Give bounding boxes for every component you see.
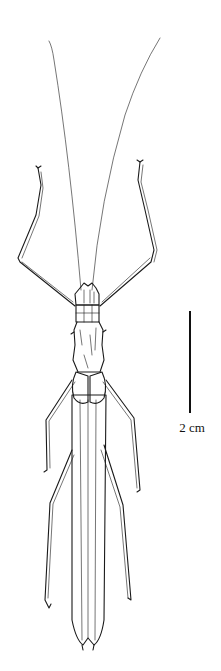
midlegs — [44, 380, 140, 492]
insect-illustration — [0, 0, 221, 671]
tegmina — [72, 372, 105, 403]
head — [75, 283, 99, 305]
antennae — [49, 38, 160, 290]
wings-abdomen — [72, 395, 106, 650]
thorax — [71, 305, 106, 372]
scale-bar-label: 2 cm — [172, 420, 212, 436]
forelegs — [18, 160, 157, 306]
